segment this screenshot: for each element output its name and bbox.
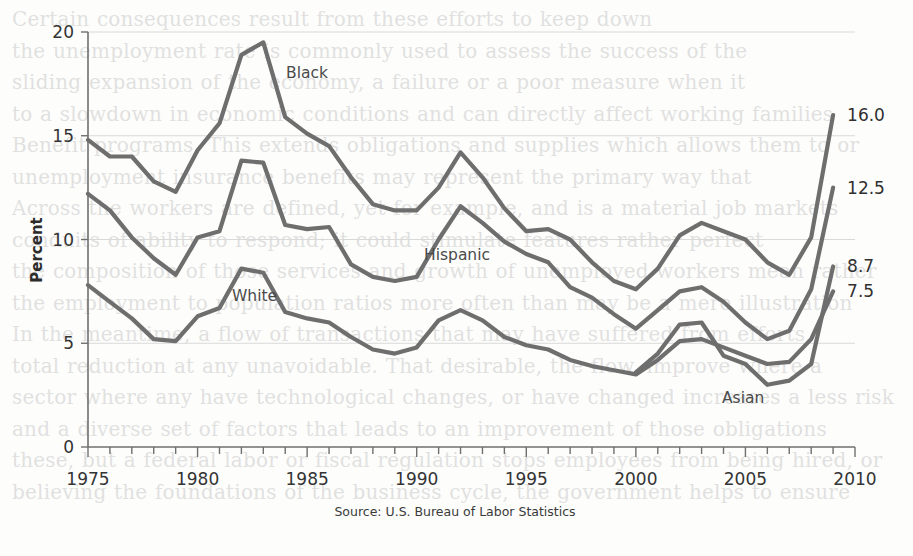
end-label-asian: 8.7 [847,256,874,276]
y-tick-label: 5 [63,333,74,353]
x-tick-labels: 19751980198519901995200020052010 [66,469,876,489]
series-line-asian [636,267,833,385]
x-tick-label: 2010 [833,469,876,489]
y-axis-title: Percent [28,217,46,282]
end-label-black: 16.0 [847,105,885,125]
chart-svg: 05101520 1975198019851990199520002005201… [0,0,913,556]
x-tick-label: 1980 [176,469,219,489]
x-tick-label: 1975 [66,469,109,489]
x-tick-label: 2005 [724,469,767,489]
y-tick-label: 15 [52,126,74,146]
series-label-black: Black [286,64,328,82]
series-label-hispanic: Hispanic [424,246,490,264]
end-label-white: 7.5 [847,281,874,301]
y-tick-labels: 05101520 [52,22,74,457]
series-line-white [88,269,833,375]
series-end-value-labels: 16.012.57.58.7 [847,105,885,301]
y-tick-label: 0 [63,437,74,457]
y-tick-label: 10 [52,230,74,250]
series-label-white: White [232,287,277,305]
unemployment-line-chart: 05101520 1975198019851990199520002005201… [0,0,913,556]
y-tick-label: 20 [52,22,74,42]
x-tick-label: 1995 [505,469,548,489]
end-label-hispanic: 12.5 [847,178,885,198]
x-tick-label: 2000 [614,469,657,489]
source-note: Source: U.S. Bureau of Labor Statistics [334,504,575,519]
gridlines [88,32,855,343]
x-tick-label: 1990 [395,469,438,489]
x-tick-label: 1985 [286,469,329,489]
series-lines [88,42,833,384]
series-label-asian: Asian [722,389,764,407]
